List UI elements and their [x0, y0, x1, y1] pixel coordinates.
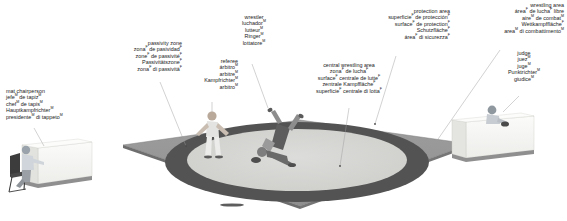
leader-wrestler — [252, 64, 268, 108]
leader-judge — [503, 96, 519, 112]
label-line: presidenteM di tappetoM — [6, 114, 136, 120]
label-line: lottatoreM — [212, 40, 296, 46]
label-line: arbitroM — [148, 84, 238, 90]
label-line: areaM di combattimentoM — [440, 28, 564, 34]
mat-chairperson-station — [9, 139, 92, 192]
label-referee: referee árbitroM arbitreM KampfrichterM … — [148, 58, 238, 90]
label-line: giudiceM — [496, 76, 552, 82]
wrestling-mat-diagram: passivity zone zonaF de pasividadF zoneF… — [0, 0, 567, 221]
label-wrestling-area: wrestling area áreaF de luchaF libre air… — [440, 2, 564, 34]
mat-front-marking — [220, 203, 244, 206]
judge-station — [452, 106, 534, 162]
mat-central-wrestling-area — [187, 129, 407, 191]
label-judge: judge juezM jugeM PunktrichterM giudiceM — [496, 50, 552, 82]
label-line: áreaF di sicurezzaF — [330, 34, 450, 40]
label-wrestler: wrestler luchadorM lutteurM RingerM lott… — [212, 14, 296, 46]
leader-passivity-zone — [160, 82, 186, 146]
label-line: superficieF centrale di lottaF — [288, 88, 410, 94]
label-mat-chairperson: mat chairperson jefeM de tapizM chefM de… — [6, 88, 136, 120]
label-protection-area: protection area superficieF de protecció… — [330, 8, 450, 40]
label-central-wrestling-area: central wrestling area zonaF de luchaF s… — [288, 62, 410, 94]
